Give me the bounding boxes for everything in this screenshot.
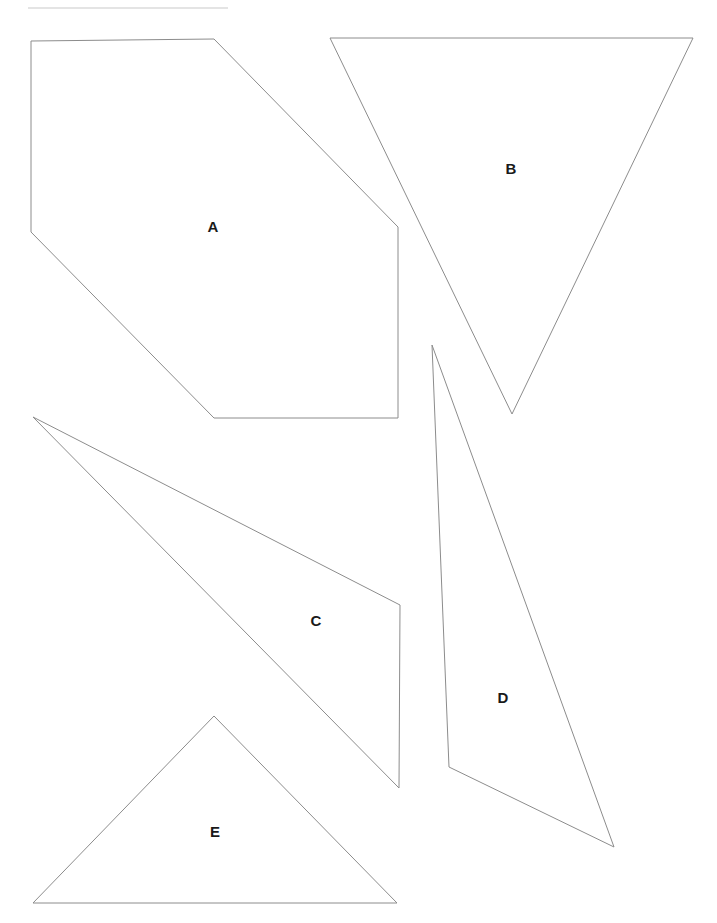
- shape-label-d: D: [498, 689, 509, 706]
- figure-canvas: A B C D E: [0, 0, 717, 923]
- shape-label-a: A: [208, 218, 219, 235]
- shape-outline-e[interactable]: [33, 716, 397, 903]
- shape-outline-d[interactable]: [432, 345, 614, 847]
- shape-label-b: B: [506, 160, 517, 177]
- shape-group-a: A: [31, 39, 398, 418]
- shape-group-d: D: [432, 345, 614, 847]
- shape-label-e: E: [210, 823, 220, 840]
- shapes-figure: A B C D E: [0, 0, 717, 923]
- shape-label-c: C: [311, 612, 322, 629]
- shape-group-e: E: [33, 716, 397, 903]
